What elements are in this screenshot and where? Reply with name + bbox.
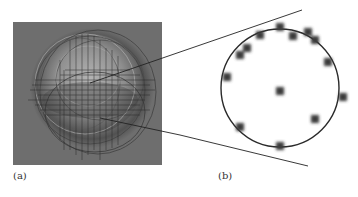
point-marker (236, 51, 244, 59)
point-marker (276, 87, 284, 95)
point-marker (311, 36, 319, 44)
panel-a (13, 22, 180, 165)
point-marker (223, 73, 231, 81)
point-marker (289, 32, 297, 40)
panel-a-label: (a) (13, 170, 27, 181)
point-marker (339, 93, 347, 101)
point-marker (311, 115, 319, 123)
point-marker (304, 28, 312, 36)
point-markers (223, 23, 347, 150)
zoom-line-bottom (180, 135, 308, 166)
point-marker (236, 123, 244, 131)
point-marker (243, 44, 251, 52)
point-marker (256, 31, 264, 39)
panel-b (221, 23, 347, 150)
panel-b-label: (b) (218, 170, 232, 181)
figure (0, 0, 358, 197)
point-marker (276, 23, 284, 31)
point-marker (324, 58, 332, 66)
point-marker (276, 142, 284, 150)
